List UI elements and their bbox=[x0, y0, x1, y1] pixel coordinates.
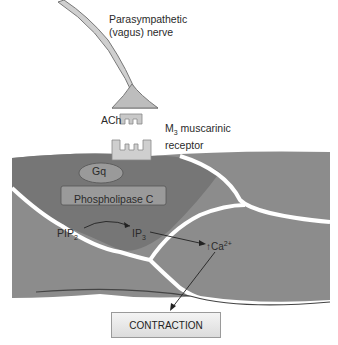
pip2-label: PIP2 bbox=[57, 227, 78, 241]
plc-label: Phospholipase C bbox=[74, 193, 153, 205]
m3-receptor bbox=[112, 140, 151, 160]
m3-suffix: muscarinic bbox=[178, 122, 231, 134]
nerve-terminal bbox=[112, 84, 158, 108]
gq-label: Gq bbox=[92, 165, 106, 177]
nerve-label-line2: (vagus) nerve bbox=[109, 26, 187, 39]
pip-sub: 2 bbox=[74, 234, 78, 241]
m3-line2: receptor bbox=[165, 139, 231, 152]
calcium-label: ↑Ca2+ bbox=[206, 240, 232, 252]
m3-receptor-label: M3 muscarinic receptor bbox=[165, 122, 231, 152]
ip-text: IP bbox=[132, 227, 142, 239]
ca-sup: 2+ bbox=[224, 240, 232, 247]
pip-text: PIP bbox=[57, 227, 74, 239]
ip3-label: IP3 bbox=[132, 227, 146, 241]
m3-prefix: M bbox=[165, 122, 174, 134]
diagram-canvas bbox=[0, 0, 338, 345]
ip-sub: 3 bbox=[142, 234, 146, 241]
ach-molecule bbox=[120, 114, 142, 124]
contraction-box: CONTRACTION bbox=[111, 312, 221, 338]
ca-text: ↑Ca bbox=[206, 241, 224, 252]
nerve-label-line1: Parasympathetic bbox=[109, 13, 187, 26]
nerve-label: Parasympathetic (vagus) nerve bbox=[109, 13, 187, 39]
ach-label: ACh bbox=[101, 114, 121, 126]
